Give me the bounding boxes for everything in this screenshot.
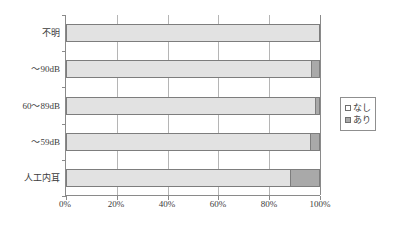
bar-row [66, 60, 320, 78]
y-axis-tick [62, 124, 66, 125]
bar-row [66, 133, 320, 151]
legend-item-あり: あり [345, 114, 371, 126]
legend-item-なし: なし [345, 102, 371, 114]
bar-segment-あり [310, 133, 320, 151]
chart-legend: なしあり [340, 97, 376, 131]
bar-segment-あり [311, 60, 320, 78]
y-axis-label-4: ～59dB [31, 137, 60, 147]
y-axis-tick [62, 160, 66, 161]
bar-row [66, 24, 320, 42]
y-axis-label-2: ～90dB [31, 64, 60, 74]
bar-segment-なし [66, 169, 290, 187]
bar-segment-なし [66, 60, 311, 78]
y-axis-tick [62, 51, 66, 52]
bar-row [66, 169, 320, 187]
x-axis-label: 0% [59, 199, 71, 209]
y-axis-tick [62, 196, 66, 197]
legend-swatch-ari-icon [345, 117, 351, 123]
legend-label: なし [353, 102, 371, 114]
bar-row [66, 97, 320, 115]
y-axis-label-1: 不明 [42, 28, 60, 38]
y-axis-label-5: 人工内耳 [24, 173, 60, 183]
plot-area [65, 15, 320, 196]
bar-segment-なし [66, 97, 315, 115]
y-axis-tick [62, 87, 66, 88]
y-axis-tick [62, 15, 66, 16]
x-axis-label: 20% [108, 199, 125, 209]
bar-segment-あり [315, 97, 320, 115]
bar-segment-なし [66, 24, 320, 42]
stacked-bar-chart: なしあり 0%20%40%60%80%100%不明～90dB60～89dB～59… [0, 0, 397, 230]
y-axis-label-3: 60～89dB [22, 101, 60, 111]
x-axis-label: 80% [261, 199, 278, 209]
legend-swatch-nashi-icon [345, 105, 351, 111]
bar-segment-あり [290, 169, 320, 187]
x-axis-label: 40% [159, 199, 176, 209]
gridline-x-100% [320, 15, 321, 195]
x-axis-label: 100% [310, 199, 331, 209]
legend-label: あり [353, 114, 371, 126]
x-axis-label: 60% [210, 199, 227, 209]
bar-segment-なし [66, 133, 310, 151]
